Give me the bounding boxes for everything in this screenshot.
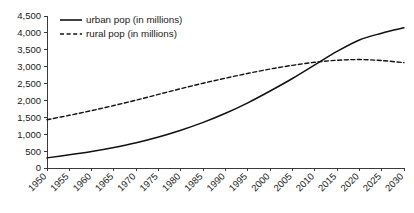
series-line-urban (47, 28, 404, 158)
x-axis-tick-label: 2020 (338, 171, 361, 194)
x-axis-tick-label: 2025 (360, 171, 383, 194)
x-axis-tick-label: 1965 (93, 171, 116, 194)
data-series-group (47, 28, 404, 158)
x-axis-tick-label: 1975 (137, 171, 160, 194)
x-axis-tick-label: 2000 (249, 171, 272, 194)
y-axis-tick-label: 3,000 (17, 61, 41, 72)
y-axis-tick-labels: 05001,0001,5002,0002,5003,0003,5004,0004… (17, 10, 41, 173)
y-axis-tick-label: 4,000 (17, 27, 41, 38)
x-axis-tick-label: 1985 (182, 171, 205, 194)
legend-label-rural: rural pop (in millions) (86, 28, 177, 39)
legend-label-urban: urban pop (in millions) (86, 14, 182, 25)
x-axis-tick-label: 1990 (204, 171, 227, 194)
x-axis-tick-label: 1960 (70, 171, 93, 194)
y-axis-tick-label: 2,000 (17, 95, 41, 106)
population-line-chart: 05001,0001,5002,0002,5003,0003,5004,0004… (0, 0, 414, 213)
y-axis-tick-label: 1,000 (17, 129, 41, 140)
x-axis-tick-label: 1980 (160, 171, 183, 194)
x-axis-tick-labels: 1950195519601965197019751980198519901995… (26, 171, 406, 194)
x-axis-tick-label: 2030 (383, 171, 406, 194)
chart-legend: urban pop (in millions)rural pop (in mil… (60, 14, 182, 39)
series-line-rural (47, 60, 404, 120)
x-axis-tick-label: 2015 (316, 171, 339, 194)
y-axis-tick-label: 4,500 (17, 10, 41, 21)
y-axis-tick-label: 3,500 (17, 44, 41, 55)
x-axis-tick-label: 1970 (115, 171, 138, 194)
y-axis-tick-label: 1,500 (17, 112, 41, 123)
x-axis-tick-label: 2005 (271, 171, 294, 194)
x-axis-tick-label: 1995 (226, 171, 249, 194)
y-axis-tick-label: 2,500 (17, 78, 41, 89)
x-axis-tick-label: 2010 (293, 171, 316, 194)
chart-container: 05001,0001,5002,0002,5003,0003,5004,0004… (0, 0, 414, 213)
x-axis-tick-label: 1955 (48, 171, 71, 194)
x-axis-tick-label: 1950 (26, 171, 49, 194)
y-axis-tick-label: 500 (25, 146, 41, 157)
